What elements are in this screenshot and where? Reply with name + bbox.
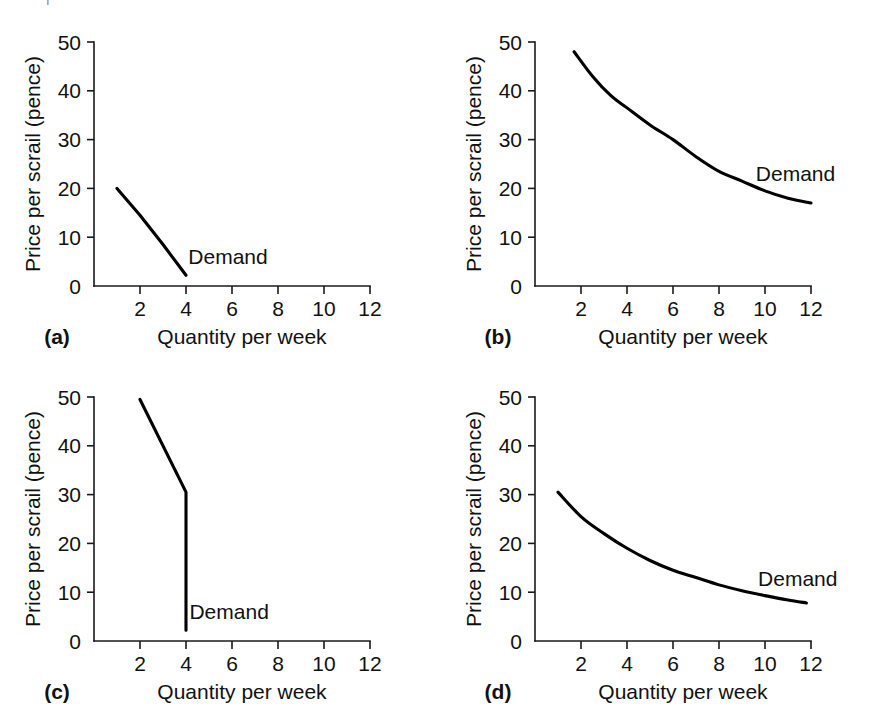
x-tick-label: 4 bbox=[621, 297, 633, 320]
y-tick-label: 50 bbox=[58, 31, 81, 54]
y-tick-label: 0 bbox=[510, 630, 522, 653]
x-tick-label: 8 bbox=[713, 652, 725, 675]
y-tick-label: 0 bbox=[69, 630, 81, 653]
x-tick-label: 6 bbox=[226, 297, 238, 320]
y-axis-title: Price per scrail (pence) bbox=[462, 411, 485, 627]
x-tick-label: 12 bbox=[799, 297, 822, 320]
x-tick-label: 8 bbox=[713, 297, 725, 320]
chart-panel-c: 0102030405024681012Quantity per weekPric… bbox=[0, 355, 441, 709]
x-tick-label: 8 bbox=[272, 297, 284, 320]
y-tick-label: 20 bbox=[499, 177, 522, 200]
demand-label: Demand bbox=[188, 245, 267, 268]
panel-tag-c: (c) bbox=[44, 680, 70, 703]
y-tick-label: 20 bbox=[58, 177, 81, 200]
x-tick-label: 6 bbox=[667, 297, 679, 320]
x-axis-title: Quantity per week bbox=[157, 680, 327, 703]
y-tick-label: 20 bbox=[499, 532, 522, 555]
x-tick-label: 4 bbox=[180, 652, 192, 675]
y-tick-label: 50 bbox=[499, 31, 522, 54]
y-axis-title: Price per scrail (pence) bbox=[462, 56, 485, 272]
demand-label: Demand bbox=[189, 600, 268, 623]
x-tick-label: 4 bbox=[621, 652, 633, 675]
y-tick-label: 40 bbox=[499, 79, 522, 102]
x-tick-label: 2 bbox=[575, 652, 587, 675]
chart-panel-a: 0102030405024681012Quantity per weekPric… bbox=[0, 0, 441, 354]
x-tick-label: 12 bbox=[358, 297, 381, 320]
demand-curve bbox=[117, 188, 186, 275]
chart-panel-d: 0102030405024681012Quantity per weekPric… bbox=[441, 355, 882, 709]
x-axis-title: Quantity per week bbox=[598, 325, 768, 348]
y-tick-label: 0 bbox=[69, 275, 81, 298]
y-tick-label: 10 bbox=[58, 581, 81, 604]
figure-root: I 0102030405024681012Quantity per weekPr… bbox=[0, 0, 882, 709]
x-tick-label: 10 bbox=[753, 297, 776, 320]
y-tick-label: 30 bbox=[58, 128, 81, 151]
chart-svg-c: 0102030405024681012Quantity per weekPric… bbox=[0, 355, 441, 709]
y-tick-label: 10 bbox=[58, 226, 81, 249]
y-tick-label: 40 bbox=[58, 434, 81, 457]
x-tick-label: 2 bbox=[575, 297, 587, 320]
y-tick-label: 30 bbox=[58, 483, 81, 506]
x-tick-label: 10 bbox=[312, 652, 335, 675]
chart-svg-d: 0102030405024681012Quantity per weekPric… bbox=[441, 355, 882, 709]
demand-curve bbox=[140, 399, 186, 630]
y-tick-label: 30 bbox=[499, 483, 522, 506]
chart-svg-a: 0102030405024681012Quantity per weekPric… bbox=[0, 0, 441, 354]
x-tick-label: 2 bbox=[134, 652, 146, 675]
y-tick-label: 50 bbox=[58, 386, 81, 409]
x-tick-label: 12 bbox=[358, 652, 381, 675]
x-tick-label: 10 bbox=[753, 652, 776, 675]
panel-tag-a: (a) bbox=[44, 325, 70, 348]
y-tick-label: 30 bbox=[499, 128, 522, 151]
x-axis-title: Quantity per week bbox=[598, 680, 768, 703]
demand-label: Demand bbox=[758, 567, 837, 590]
y-tick-label: 50 bbox=[499, 386, 522, 409]
demand-label: Demand bbox=[756, 162, 835, 185]
x-tick-label: 10 bbox=[312, 297, 335, 320]
x-tick-label: 2 bbox=[134, 297, 146, 320]
y-tick-label: 20 bbox=[58, 532, 81, 555]
chart-panel-b: 0102030405024681012Quantity per weekPric… bbox=[441, 0, 882, 354]
y-tick-label: 40 bbox=[499, 434, 522, 457]
x-tick-label: 12 bbox=[799, 652, 822, 675]
y-axis-title: Price per scrail (pence) bbox=[21, 411, 44, 627]
panel-tag-b: (b) bbox=[485, 325, 512, 348]
y-tick-label: 10 bbox=[499, 581, 522, 604]
x-tick-label: 8 bbox=[272, 652, 284, 675]
x-tick-label: 6 bbox=[226, 652, 238, 675]
x-tick-label: 6 bbox=[667, 652, 679, 675]
x-tick-label: 4 bbox=[180, 297, 192, 320]
y-axis-title: Price per scrail (pence) bbox=[21, 56, 44, 272]
chart-svg-b: 0102030405024681012Quantity per weekPric… bbox=[441, 0, 882, 354]
y-tick-label: 10 bbox=[499, 226, 522, 249]
panel-tag-d: (d) bbox=[485, 680, 512, 703]
y-tick-label: 0 bbox=[510, 275, 522, 298]
x-axis-title: Quantity per week bbox=[157, 325, 327, 348]
y-tick-label: 40 bbox=[58, 79, 81, 102]
